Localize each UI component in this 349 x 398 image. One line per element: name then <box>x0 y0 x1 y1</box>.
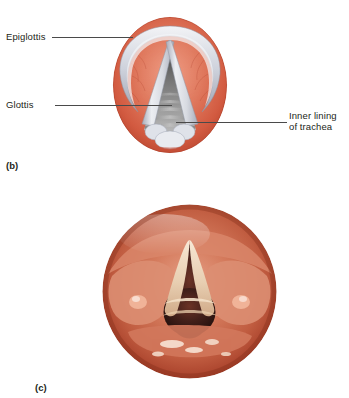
label-glottis: Glottis <box>6 99 34 110</box>
illumination-sheen <box>118 214 210 254</box>
label-inner-lining-line1: Inner lining <box>289 110 337 121</box>
specular-highlight-right <box>239 296 247 302</box>
label-inner-lining-line2: of trachea <box>289 121 332 132</box>
specular-highlight-left <box>132 296 140 302</box>
label-epiglottis: Epiglottis <box>6 31 46 42</box>
larynx-photograph-graphic <box>102 204 277 379</box>
figure-root: Epiglottis Glottis Inner lining of trach… <box>0 0 349 398</box>
leader-line-inner-lining <box>176 122 287 123</box>
larynx-photograph <box>102 204 277 379</box>
caption-panel-c: (c) <box>35 382 47 393</box>
caption-panel-b: (b) <box>6 160 18 171</box>
leader-line-glottis <box>55 105 172 106</box>
leader-line-epiglottis <box>52 37 133 38</box>
